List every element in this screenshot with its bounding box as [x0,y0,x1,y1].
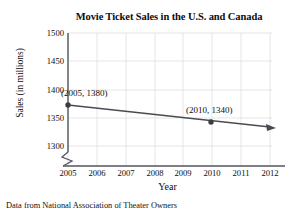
chart-source-caption: Data from National Association of Theate… [6,201,177,210]
y-axis-break-icon [62,152,72,166]
x-axis-label: Year [60,181,275,192]
x-tick-label-2012: 2012 [253,169,287,178]
data-point-label-2010: (2010, 1340) [186,105,233,115]
data-line [68,105,270,127]
data-point-2010[interactable] [208,119,213,124]
data-point-2005[interactable] [65,102,70,107]
data-point-label-2005: (2005, 1380) [61,88,108,98]
data-line-arrowhead [266,124,276,131]
chart-figure: Movie Ticket Sales in the U.S. and Canad… [0,0,300,218]
